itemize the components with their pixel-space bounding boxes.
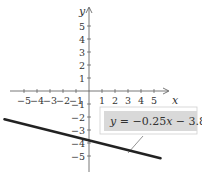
x-tick-label: −5: [17, 95, 31, 106]
callout-equation: y = −0.25x − 3.8: [109, 115, 202, 128]
y-axis-label: y: [78, 5, 86, 18]
x-tick-label: 5: [151, 95, 157, 106]
x-tick-label: −2: [56, 95, 70, 106]
y-tick-label: −1: [71, 99, 85, 110]
x-tick-label: 2: [112, 95, 118, 106]
y-tick-label: 3: [79, 47, 85, 58]
y-tick-label: 5: [79, 21, 85, 32]
y-tick-label: 1: [79, 73, 85, 84]
x-axis-label: x: [172, 94, 179, 107]
x-tick-label: 1: [99, 95, 105, 106]
y-tick-label: −2: [71, 112, 85, 123]
graph-canvas: −5−4−3−2−112345−5−4−3−2−112345 y = −0.25…: [0, 0, 202, 184]
axes: [10, 7, 169, 172]
x-tick-label: 4: [138, 95, 144, 106]
y-tick-label: −3: [71, 125, 85, 136]
x-tick-label: 3: [125, 95, 131, 106]
y-tick-label: 2: [79, 60, 85, 71]
y-tick-label: −5: [71, 151, 85, 162]
x-tick-label: −3: [43, 95, 57, 106]
y-tick-label: 4: [79, 34, 85, 45]
x-tick-label: −4: [30, 95, 44, 106]
